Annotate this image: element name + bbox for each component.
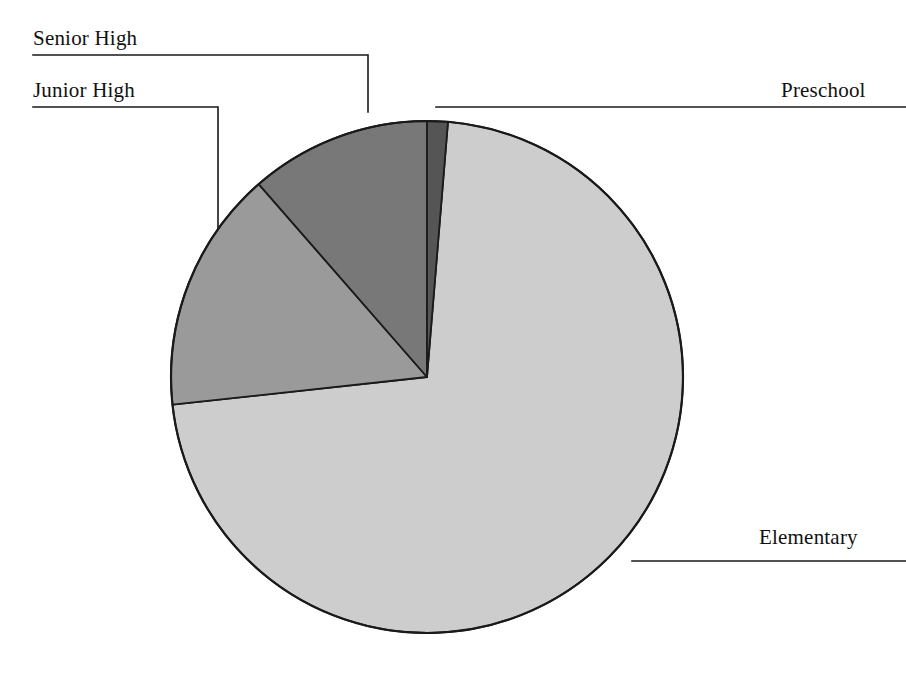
pie-label-preschool: Preschool bbox=[781, 80, 866, 101]
pie-chart-svg bbox=[0, 0, 906, 691]
pie-slices bbox=[171, 121, 683, 633]
pie-label-junior-high: Junior High bbox=[33, 80, 135, 101]
pie-chart-figure: Senior High Junior High Preschool Elemen… bbox=[0, 0, 906, 691]
pie-label-senior-high: Senior High bbox=[33, 28, 137, 49]
pie-label-elementary: Elementary bbox=[759, 527, 858, 548]
